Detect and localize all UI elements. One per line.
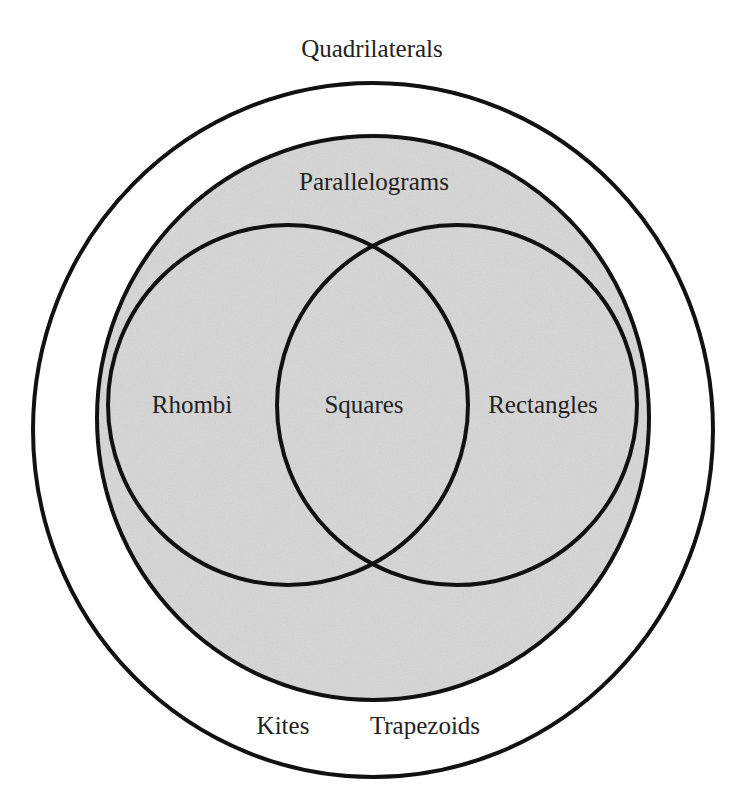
parallelograms-texture <box>97 136 649 700</box>
quadrilaterals-venn-diagram: Quadrilaterals Parallelograms Rhombi Squ… <box>0 0 740 807</box>
parallelograms-label: Parallelograms <box>299 168 449 195</box>
quadrilaterals-label: Quadrilaterals <box>301 35 443 62</box>
trapezoids-label: Trapezoids <box>370 712 480 739</box>
rectangles-label: Rectangles <box>488 391 598 418</box>
squares-label: Squares <box>324 391 403 418</box>
kites-label: Kites <box>257 712 310 739</box>
rhombi-label: Rhombi <box>152 391 233 418</box>
